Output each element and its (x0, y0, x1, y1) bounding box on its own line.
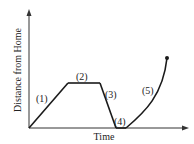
x-axis-arrow-icon (182, 126, 189, 131)
distance-time-graph: (1) (2) (3) (4) (5) Time Distance from H… (0, 0, 194, 144)
axes (29, 13, 185, 128)
endpoint-dot (165, 56, 169, 60)
segment-label-1: (1) (36, 93, 48, 105)
segment-1-increase (29, 83, 68, 128)
x-axis-label: Time (94, 131, 115, 142)
segment-label-2: (2) (76, 71, 88, 83)
y-axis-arrow-icon (27, 9, 32, 16)
segment-label-5: (5) (142, 85, 154, 97)
segment-label-4: (4) (114, 116, 126, 128)
segment-label-3: (3) (105, 89, 117, 101)
y-axis-label: Distance from Home (12, 28, 23, 112)
